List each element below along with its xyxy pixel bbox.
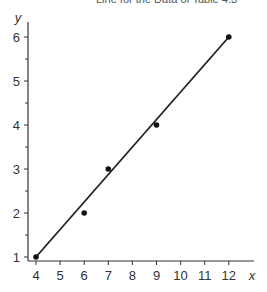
x-tick-label: 9 (153, 268, 160, 283)
y-tick-label: 6 (13, 30, 20, 45)
x-tick-label: 5 (56, 268, 63, 283)
x-axis-label: x (248, 268, 256, 283)
y-axis-label: y (14, 10, 23, 25)
x-tick-label: 4 (32, 268, 39, 283)
x-tick-label: 6 (81, 268, 88, 283)
y-tick-label: 3 (13, 162, 20, 177)
fitted-line (36, 37, 229, 257)
y-tick-label: 1 (13, 250, 20, 265)
scatter-chart: 456789101112123456xy (0, 0, 267, 292)
x-tick-label: 8 (129, 268, 136, 283)
data-point (81, 210, 87, 216)
y-tick-label: 2 (13, 206, 20, 221)
data-point (106, 166, 112, 172)
y-tick-label: 5 (13, 74, 20, 89)
data-point (226, 34, 232, 40)
x-tick-label: 7 (105, 268, 112, 283)
data-point (154, 122, 160, 128)
y-tick-label: 4 (13, 118, 20, 133)
data-point (33, 254, 39, 260)
x-tick-label: 12 (222, 268, 236, 283)
x-tick-label: 11 (198, 268, 212, 283)
x-tick-label: 10 (173, 268, 187, 283)
